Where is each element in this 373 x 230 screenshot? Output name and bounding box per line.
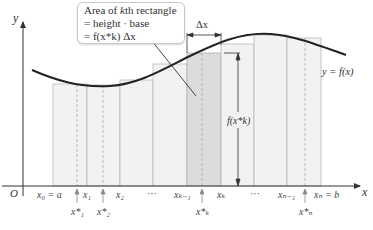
partition-label-dots2: ··· (250, 188, 260, 199)
partition-label-x1: x₁ (82, 189, 91, 200)
rectangle-4 (153, 64, 187, 186)
partition-label-xn: xₙ = b (313, 189, 339, 200)
origin-label: O (10, 187, 18, 199)
rectangle-7 (254, 35, 287, 186)
callout-line-3: = f(x*k) Δx (84, 30, 184, 43)
sample-label-xkstar: x*ₖ (195, 206, 209, 217)
delta-x-label: Δx (196, 19, 209, 30)
partition-label-x0: x₀ = a (36, 189, 62, 200)
sample-label-xnstar: x*ₙ (298, 206, 313, 217)
area-callout-box: Area of kth rectangle = height · base = … (77, 2, 185, 44)
rectangle-n (287, 38, 321, 186)
callout-line-1: Area of kth rectangle (84, 4, 184, 17)
sample-label-x1star: x*₁ (70, 206, 84, 217)
x-axis-label: x (361, 185, 368, 199)
partition-label-xn-1: xₙ₋₁ (277, 189, 295, 200)
partition-label-dots1: ··· (147, 188, 157, 199)
partition-label-xk-1: xₖ₋₁ (173, 189, 191, 200)
callout-line1-suffix: th rectangle (125, 4, 177, 16)
sample-labels: x*₁ x*₂ x*ₖ x*ₙ (70, 206, 313, 217)
sample-label-x2star: x*₂ (96, 206, 110, 217)
partition-labels: x₀ = a x₁ x₂ ··· xₖ₋₁ xₖ ··· xₙ₋₁ xₙ = b (36, 188, 339, 200)
riemann-diagram: y x O y = f(x) Δx f(x*k) x₀ = a x₁ x₂ ··… (0, 0, 373, 230)
y-axis-label: y (12, 11, 19, 25)
partition-label-x2: x₂ (115, 189, 124, 200)
rectangle-1 (53, 84, 87, 186)
height-label: f(x*k) (227, 115, 251, 127)
sample-arrows (75, 189, 307, 203)
rectangle-3 (120, 80, 153, 186)
curve-label: y = f(x) (321, 66, 354, 78)
partition-label-xk: xₖ (216, 189, 225, 200)
callout-line-2: = height · base (84, 17, 184, 30)
rectangle-2 (87, 85, 120, 186)
rectangle-k-highlighted (187, 53, 221, 186)
callout-line1-prefix: Area of (84, 4, 120, 16)
